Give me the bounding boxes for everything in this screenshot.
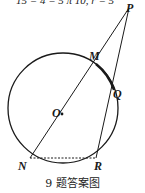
label-m: M (88, 49, 100, 63)
arc-mq (96, 64, 114, 90)
line-pn (30, 8, 129, 158)
figure-caption: 9 题答案图 (0, 174, 145, 190)
label-p: P (126, 1, 134, 15)
label-o: O (52, 106, 61, 120)
line-pr (96, 8, 129, 158)
label-n: N (17, 159, 28, 173)
label-q: Q (113, 87, 122, 101)
geometry-diagram: P M Q O N R (0, 0, 145, 193)
center-point (61, 113, 64, 116)
label-r: R (93, 159, 102, 173)
